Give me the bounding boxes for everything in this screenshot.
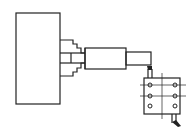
tool-holder-holes	[148, 83, 177, 108]
cutting-tool-upper	[148, 69, 152, 78]
tool-tip-lower-icon	[172, 120, 181, 127]
chuck	[60, 40, 85, 76]
workpiece-large-diameter	[85, 48, 126, 69]
tool-holder-centerlines	[140, 73, 186, 119]
lathe-diagram	[0, 0, 194, 136]
workpiece-small-diameter	[126, 52, 151, 65]
headstock	[16, 13, 60, 104]
